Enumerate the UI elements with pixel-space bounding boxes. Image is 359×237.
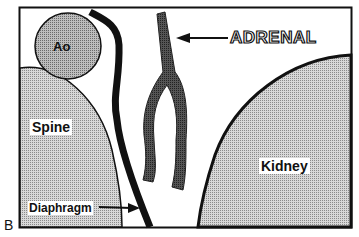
panel-letter: B — [4, 217, 13, 233]
adrenal-label: ADRENAL — [230, 29, 317, 46]
aorta-label: Ao — [53, 40, 70, 53]
diaphragm-label: Diaphragm — [28, 201, 93, 215]
kidney-label: Kidney — [259, 158, 310, 174]
spine-label: Spine — [30, 119, 72, 135]
